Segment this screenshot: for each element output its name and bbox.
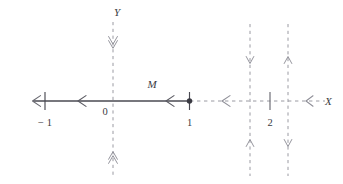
tick-label-minus-one: − 1 xyxy=(38,117,52,128)
tick-label-two: 2 xyxy=(267,117,272,128)
number-line-diagram-canvas: Y M X 0 − 1 1 2 xyxy=(0,0,343,184)
y-axis-line-group xyxy=(109,22,118,176)
segment-label-m: M xyxy=(146,78,157,90)
point-marker-one xyxy=(187,98,192,103)
y-axis-label: Y xyxy=(114,6,122,18)
vertical-dashed-line-1-group xyxy=(246,24,254,176)
number-line-figure: Y M X 0 − 1 1 2 xyxy=(0,0,343,184)
tick-label-zero: 0 xyxy=(102,106,107,117)
vertical-dashed-line-2-group xyxy=(284,24,292,176)
tick-label-one: 1 xyxy=(187,117,192,128)
x-axis-label: X xyxy=(324,95,333,107)
